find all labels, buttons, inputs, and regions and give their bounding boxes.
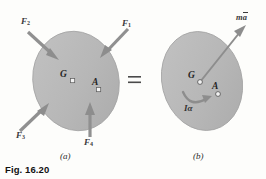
moment-label-I-alpha: Iα — [184, 104, 193, 113]
equals-sign-glyph — [128, 76, 141, 83]
point-label-G-panel-b: G — [188, 71, 195, 81]
panel-a-point-G-marker — [71, 79, 75, 83]
panel-b-point-G-marker — [198, 80, 203, 85]
point-label-A-panel-b: A — [212, 82, 218, 92]
force-label-F1: F1 — [122, 19, 131, 28]
point-label-G-panel-a: G — [60, 70, 67, 80]
point-label-A-panel-a: A — [92, 78, 98, 88]
figure-caption: Fig. 16.20 — [5, 165, 49, 175]
panel-caption-a: (a) — [60, 152, 71, 161]
effective-force-label-ma: ma — [236, 13, 247, 22]
force-arrow-F1 — [100, 29, 128, 58]
figure-16-20: F2 F1 F3 F4 G A G A ma Iα (a) (b) Fig. 1… — [0, 0, 266, 179]
force-label-F3: F3 — [16, 131, 25, 140]
figure-canvas — [0, 0, 266, 179]
force-label-F2: F2 — [21, 17, 30, 26]
force-arrow-F3 — [20, 103, 49, 131]
force-label-F4: F4 — [84, 138, 93, 147]
panel-caption-b: (b) — [193, 152, 204, 161]
panel-b-point-A-marker — [216, 92, 221, 97]
a-bar-vector: a — [243, 13, 247, 22]
panel-a-point-A-marker — [97, 88, 101, 92]
